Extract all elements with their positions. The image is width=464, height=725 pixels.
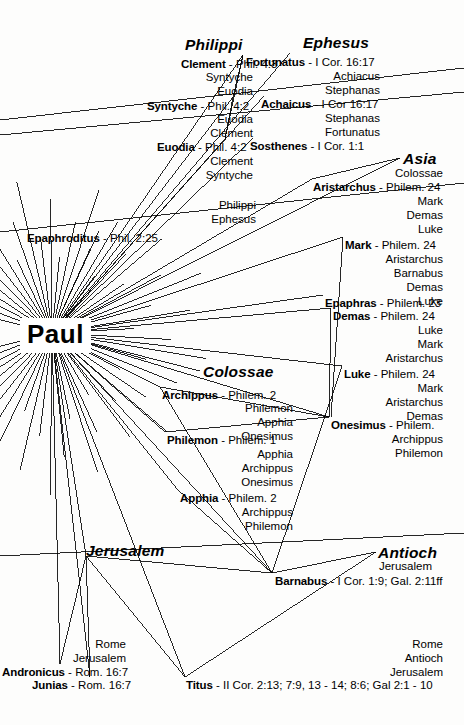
assoc-col-3: Onesimus [241,430,293,443]
person-name-onesimus: Onesimus [331,419,386,431]
assoc-col-6: Onesimus [241,476,293,489]
assoc-mark-1: Aristarchus [385,253,443,266]
person-reference-aristarchus: Philem. 24 [386,181,440,193]
person-row-fortunatus[interactable]: Fortunatus - I Cor. 16:17 [246,56,375,69]
person-name-titus: Titus [186,679,213,691]
label-layer: PhilippiEphesusAsiaColossaeJerusalemAnti… [0,0,464,725]
assoc-col-4: Apphia [257,448,293,461]
person-reference-syntyche: Phil. 4:2 [208,100,250,112]
person-reference-sosthenes: I Cor. 1:1 [318,140,365,152]
place-label-ephesus: Ephesus [303,34,369,52]
person-separator-titus: - [213,679,223,691]
person-separator-epaphroditus: - [100,232,110,244]
person-separator-sosthenes: - [307,140,317,152]
assoc-antioch-1: Jerusalem [379,560,432,573]
person-separator-mark: - [371,239,381,251]
person-row-euodia[interactable]: Euodia - Phil. 4:2 [157,141,247,154]
person-name-junias: Junias [32,679,68,691]
person-reference-fortunatus: I Cor. 16:17 [315,56,374,68]
person-row-luke[interactable]: Luke - Philem. 24 [344,368,435,381]
assoc-col-8: Philemon [245,520,293,533]
person-separator-junias: - [68,679,78,691]
person-separator-andronicus: - [65,666,75,678]
assoc-titus-1: Rome [412,638,443,651]
person-name-syntyche: Syntyche [147,100,197,112]
assoc-philippi-5: Clement [210,155,253,168]
person-reference-achaicus: I Cor 16:17 [322,98,379,110]
person-name-euodia: Euodia [157,141,195,153]
assoc-aris-3: Luke [418,223,443,236]
assoc-mark-3: Demas [407,281,443,294]
assoc-philippi-3: Euodia [217,113,253,126]
person-row-junias[interactable]: Junias - Rom. 16:7 [32,679,131,692]
assoc-philippi-1: Syntyche [206,71,253,84]
person-name-archippus: Archippus [162,389,218,401]
person-name-epaphras: Epaphras [325,297,377,309]
person-row-achaicus[interactable]: Achaicus - I Cor 16:17 [261,98,378,111]
person-separator-fortunatus: - [305,56,315,68]
person-row-sosthenes[interactable]: Sosthenes - I Cor. 1:1 [250,140,364,153]
assoc-ephesus-2: Stephanas [325,84,380,97]
person-reference-archippus: Philem. 2 [228,389,276,401]
person-row-barnabas[interactable]: Barnabus - I Cor. 1:9; Gal. 2:11ff [275,575,443,588]
person-reference-barnabas: I Cor. 1:9; Gal. 2:11ff [337,575,442,587]
assoc-col-5: Archippus [242,462,293,475]
place-label-philippi: Philippi [185,36,243,54]
paul-hub-node[interactable]: Paul [20,318,91,353]
person-name-epaphroditus: Epaphroditus [27,232,100,244]
person-reference-demas: Philem. 24 [380,310,434,322]
assoc-andro-2: Jerusalem [73,652,126,665]
person-name-aristarchus: Aristarchus [313,181,376,193]
assoc-philippi-4: Clement [210,127,253,140]
person-row-archippus[interactable]: Archippus - Philem. 2 [162,389,276,402]
person-separator-archippus: - [218,389,228,401]
assoc-titus-2: Antioch [405,652,443,665]
assoc-aris-2: Demas [407,209,443,222]
person-reference-luke: Philem. 24 [381,368,435,380]
person-row-apphia[interactable]: Apphia - Philem. 2 [180,492,277,505]
assoc-luke-1: Mark [417,382,443,395]
person-name-andronicus: Andronicus [2,666,65,678]
assoc-col-1: Philemon [245,402,293,415]
assoc-titus-3: Jerusalem [390,666,443,679]
assoc-ones-1: Archippus [392,433,443,446]
person-separator-philemon: - [218,434,228,446]
person-name-clement: Clement [181,58,226,70]
assoc-col-7: Archippus [242,506,293,519]
person-name-fortunatus: Fortunatus [246,56,305,68]
assoc-luke-3: Demas [407,410,443,423]
person-row-epaphroditus[interactable]: Epaphroditus - Phil. 2:25 [27,232,158,245]
person-reference-andronicus: Rom. 16:7 [75,666,128,678]
person-name-philemon: Philemon [167,434,218,446]
assoc-mark-4: Luke [418,295,443,308]
person-row-mark[interactable]: Mark - Philem. 24 [345,239,436,252]
place-label-jerusalem: Jerusalem [86,542,165,560]
assoc-demas-1: Luke [418,324,443,337]
assoc-ephesus-1: Achiacus [333,70,380,83]
place-label-asia: Asia [403,150,437,168]
person-separator-barnabas: - [327,575,337,587]
person-separator-achaicus: - [311,98,321,110]
assoc-mark-2: Barnabus [394,267,443,280]
assoc-epaph-2: Ephesus [211,213,256,226]
person-row-demas[interactable]: Demas - Philem. 24 [333,310,435,323]
person-separator-apphia: - [218,492,228,504]
person-separator-aristarchus: - [376,181,386,193]
person-separator-luke: - [370,368,380,380]
assoc-luke-2: Aristarchus [385,396,443,409]
assoc-demas-3: Aristarchus [385,352,443,365]
person-name-demas: Demas [333,310,370,322]
person-row-syntyche[interactable]: Syntyche - Phil. 4:2 [147,100,249,113]
assoc-philippi-2: Euodia [217,85,253,98]
person-row-aristarchus[interactable]: Aristarchus - Philem. 24 [313,181,440,194]
person-row-andronicus[interactable]: Andronicus - Rom. 16:7 [2,666,128,679]
assoc-ephesus-4: Fortunatus [325,126,380,139]
person-separator-demas: - [370,310,380,322]
assoc-demas-2: Mark [417,338,443,351]
person-name-sosthenes: Sosthenes [250,140,307,152]
person-row-titus[interactable]: Titus - II Cor. 2:13; 7:9, 13 - 14; 8:6;… [186,679,433,692]
person-separator-euodia: - [195,141,205,153]
person-name-achaicus: Achaicus [261,98,311,110]
person-separator-onesimus: - [386,419,396,431]
assoc-asia-1: Colossae [395,167,443,180]
